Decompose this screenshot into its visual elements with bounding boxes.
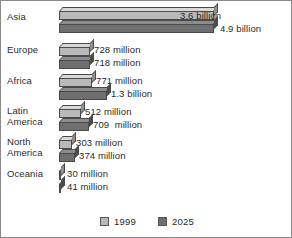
bar-africa-2025	[59, 91, 107, 100]
category-label-europe: Europe	[7, 45, 59, 56]
chart-row-oceania: Oceania 30 million 41 million	[1, 167, 292, 198]
bar-group-latin-america-2025	[59, 118, 89, 131]
bar-front-face	[59, 60, 90, 69]
legend-label-2025: 2025	[172, 216, 194, 227]
bar-group-africa-1999	[59, 74, 92, 87]
bar-front-face	[59, 47, 90, 56]
legend-swatch-icon-1999	[100, 217, 109, 226]
bar-group-latin-america-1999	[59, 105, 81, 118]
bar-group-north-america-2025	[59, 149, 75, 162]
bar-side-face	[214, 16, 218, 29]
bar-front-face	[59, 24, 214, 33]
value-label-europe-2025: 718 million	[94, 57, 141, 68]
bar-latin-america-2025	[59, 122, 89, 131]
legend-item-1999: 1999	[100, 216, 136, 227]
value-label-oceania-1999: 30 million	[67, 168, 108, 179]
bar-front-face	[59, 91, 107, 100]
chart-plot-area: Asia 3.6 billion 4.9 billion Europe	[1, 1, 292, 201]
bar-side-face	[61, 163, 65, 176]
chart-row-africa: Africa 771 million 1.3 billion	[1, 74, 292, 105]
bar-front-face	[59, 140, 72, 149]
value-label-europe-1999: 728 million	[94, 44, 141, 55]
legend-swatch-icon-2025	[158, 217, 167, 226]
bar-europe-1999	[59, 47, 90, 56]
value-label-north-america-2025: 374 million	[79, 150, 126, 161]
population-bar-chart: Asia 3.6 billion 4.9 billion Europe	[0, 0, 292, 238]
bar-group-oceania-1999	[59, 167, 61, 180]
legend-label-1999: 1999	[114, 216, 136, 227]
bar-front-face	[59, 153, 75, 162]
category-label-africa: Africa	[7, 76, 59, 87]
chart-row-latin-america: Latin America 512 million 709 million	[1, 105, 292, 136]
bar-europe-2025	[59, 60, 90, 69]
value-label-africa-1999: 771 million	[96, 75, 143, 86]
value-label-asia-2025: 4.9 billion	[220, 23, 261, 34]
bar-front-face	[59, 122, 89, 131]
value-label-africa-2025: 1.3 billion	[111, 88, 152, 99]
bar-group-asia-2025	[59, 20, 214, 33]
bar-side-face	[61, 176, 65, 189]
category-label-north-america: North America	[7, 137, 59, 158]
bar-front-face	[59, 109, 81, 118]
chart-row-europe: Europe 728 million 718 million	[1, 43, 292, 74]
bar-africa-1999	[59, 78, 92, 87]
bar-group-africa-2025	[59, 87, 107, 100]
bar-group-europe-2025	[59, 56, 90, 69]
bar-north-america-2025	[59, 153, 75, 162]
category-label-latin-america: Latin America	[7, 106, 59, 127]
chart-row-north-america: North America 303 million 374 million	[1, 136, 292, 167]
bar-group-north-america-1999	[59, 136, 72, 149]
category-label-oceania: Oceania	[7, 169, 59, 180]
value-label-north-america-1999: 303 million	[76, 137, 123, 148]
legend-item-2025: 2025	[158, 216, 194, 227]
value-label-latin-america-2025: 709 million	[93, 119, 142, 130]
value-label-oceania-2025: 41 million	[67, 181, 108, 192]
bar-group-oceania-2025	[59, 180, 61, 193]
bar-latin-america-1999	[59, 109, 81, 118]
bar-asia-2025	[59, 24, 214, 33]
category-label-asia: Asia	[7, 12, 59, 23]
chart-legend: 1999 2025	[1, 216, 292, 227]
bar-oceania-2025	[59, 184, 61, 193]
bar-front-face	[59, 78, 92, 87]
chart-row-asia: Asia 3.6 billion 4.9 billion	[1, 7, 292, 42]
bar-group-europe-1999	[59, 43, 90, 56]
bar-north-america-1999	[59, 140, 72, 149]
